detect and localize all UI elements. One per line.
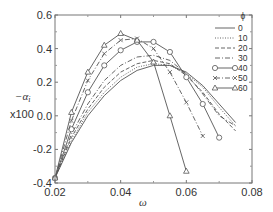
y-axis-label: −αi [15, 90, 30, 104]
x-marker [233, 76, 237, 80]
chart: 0.020.040.060.08-0.4-0.20.00.20.40.6 ϕ01… [0, 0, 273, 212]
circle-marker [118, 48, 123, 53]
legend-label: 30 [238, 53, 248, 63]
circle-marker [200, 101, 205, 106]
series-line [55, 60, 236, 178]
circle-marker [184, 75, 189, 80]
legend-title: ϕ [241, 11, 246, 21]
series-phi-50 [53, 37, 205, 180]
triangle-marker [118, 30, 124, 35]
triangle-marker [212, 85, 218, 90]
circle-marker [102, 63, 107, 68]
circle-marker [212, 65, 217, 70]
x-marker [152, 47, 156, 51]
circle-marker [167, 49, 172, 54]
x-tick-label: 0.06 [176, 186, 197, 198]
y-tick-label: -0.2 [33, 143, 52, 155]
legend-entry-20: 20 [215, 43, 248, 53]
series-phi-20 [55, 60, 236, 178]
y-axis-scale-label: x100 [10, 108, 34, 120]
triangle-marker [167, 113, 173, 118]
series-line [55, 64, 236, 178]
legend-entry-40: 40 [212, 63, 247, 73]
triangle-marker [184, 168, 190, 173]
triangle-marker [101, 42, 107, 47]
legend-entry-60: 60 [212, 83, 248, 93]
x-marker [86, 79, 90, 83]
legend-entry-0: 0 [215, 23, 243, 33]
y-tick-label: 0.0 [37, 110, 52, 122]
legend: ϕ0102030405060 [212, 11, 248, 93]
x-marker [168, 70, 172, 74]
y-tick-label: 0.4 [37, 43, 52, 55]
y-tick-label: 0.2 [37, 76, 52, 88]
series-line [55, 39, 203, 179]
series-line [55, 34, 186, 179]
circle-marker [232, 65, 237, 70]
triangle-marker [85, 69, 91, 74]
legend-label: 40 [238, 63, 248, 73]
legend-label: 50 [238, 73, 248, 83]
circle-marker [217, 135, 222, 140]
y-tick-label: -0.4 [33, 177, 52, 189]
circle-marker [151, 39, 156, 44]
series-line [55, 42, 219, 178]
triangle-marker [69, 109, 75, 114]
axes: 0.020.040.060.08-0.4-0.20.00.20.40.6 [33, 9, 263, 198]
circle-marker [85, 90, 90, 95]
series-phi-10 [55, 64, 236, 178]
legend-label: 60 [238, 83, 248, 93]
x-marker [201, 134, 205, 138]
y-tick-label: 0.6 [37, 9, 52, 21]
x-tick-label: 0.08 [241, 186, 262, 198]
y-axis-label-subscript: i [28, 95, 30, 104]
legend-entry-30: 30 [215, 53, 248, 63]
triangle-marker [232, 85, 238, 90]
x-tick-label: 0.04 [110, 186, 131, 198]
x-axis-label: ω [139, 196, 147, 208]
legend-label: 20 [238, 43, 248, 53]
plot-area [52, 30, 235, 180]
x-marker [102, 52, 106, 56]
x-marker [184, 100, 188, 104]
legend-entry-50: 50 [213, 73, 248, 83]
legend-label: 0 [238, 23, 243, 33]
legend-label: 10 [238, 33, 248, 43]
series-phi-40 [52, 39, 221, 180]
legend-entry-10: 10 [215, 33, 248, 43]
